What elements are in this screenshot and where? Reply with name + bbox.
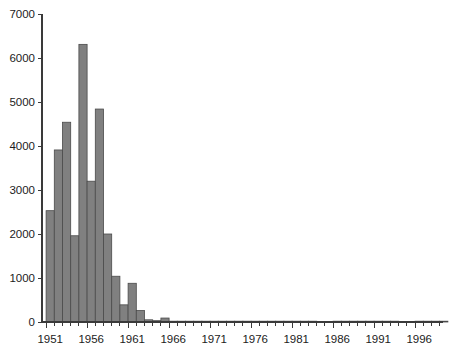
x-tick-label: 1986 — [324, 333, 350, 345]
y-tick-label: 6000 — [9, 52, 35, 64]
y-axis-tick-labels: 01000200030004000500060007000 — [9, 8, 35, 328]
histogram-bar — [54, 150, 62, 322]
x-tick-label: 1976 — [242, 333, 268, 345]
histogram-bar — [71, 236, 79, 322]
histogram-bar — [120, 305, 128, 322]
x-tick-label: 1996 — [406, 333, 432, 345]
y-tick-label: 4000 — [9, 140, 35, 152]
histogram-bar — [87, 181, 95, 322]
histogram-bar — [136, 311, 144, 322]
y-tick-label: 5000 — [9, 96, 35, 108]
x-tick-label: 1991 — [365, 333, 391, 345]
x-axis-ticks — [46, 322, 440, 328]
histogram-bar — [161, 318, 169, 322]
x-tick-label: 1951 — [37, 333, 63, 345]
x-tick-label: 1971 — [201, 333, 227, 345]
y-tick-label: 3000 — [9, 184, 35, 196]
x-tick-label: 1981 — [283, 333, 309, 345]
histogram-bar — [79, 44, 87, 322]
histogram-bar — [95, 109, 103, 322]
histogram-bar — [128, 283, 136, 322]
x-axis-tick-labels: 1951195619611966197119761981198619911996 — [37, 333, 432, 345]
histogram-bar — [104, 234, 112, 322]
chart-canvas: 01000200030004000500060007000 1951195619… — [0, 0, 451, 364]
histogram-chart: 01000200030004000500060007000 1951195619… — [0, 0, 451, 364]
y-tick-label: 0 — [29, 316, 35, 328]
bars-group — [46, 44, 448, 322]
histogram-bar — [112, 276, 120, 322]
y-tick-label: 7000 — [9, 8, 35, 20]
x-tick-label: 1961 — [119, 333, 145, 345]
x-tick-label: 1956 — [78, 333, 104, 345]
histogram-bar — [63, 122, 71, 322]
y-axis-ticks — [38, 14, 42, 322]
histogram-bar — [46, 211, 54, 322]
y-tick-label: 1000 — [9, 272, 35, 284]
y-tick-label: 2000 — [9, 228, 35, 240]
x-tick-label: 1966 — [160, 333, 186, 345]
